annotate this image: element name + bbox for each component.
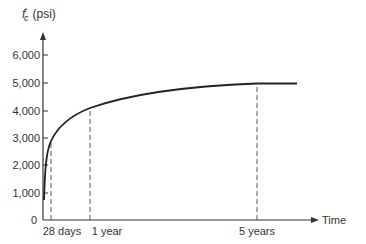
label-5-years: 5 years <box>239 225 276 237</box>
x-axis-arrow-icon <box>311 217 319 223</box>
ytick-6000: 6,000 <box>12 49 40 61</box>
ytick-3000: 3,000 <box>12 132 40 144</box>
x-marker-labels: 28 days 1 year 5 years <box>43 225 276 237</box>
ytick-2000: 2,000 <box>12 159 40 171</box>
ylabel-sub: c <box>24 13 29 23</box>
strength-curve <box>44 84 297 201</box>
ytick-0: 0 <box>31 214 37 226</box>
ytick-1000: 1,000 <box>12 187 40 199</box>
ylabel-unit: (psi) <box>33 7 56 21</box>
y-tick-labels: 0 1,000 2,000 3,000 4,000 5,000 6,000 <box>12 49 40 226</box>
y-axis-label: f′c(psi) <box>22 6 56 23</box>
marker-lines <box>51 84 257 220</box>
y-axis-arrow-icon <box>40 32 46 40</box>
x-axis-label: Time <box>322 214 346 226</box>
strength-time-chart: f′c(psi) Time 0 1,000 2,000 3,000 4,000 … <box>0 0 366 244</box>
label-28-days: 28 days <box>43 225 82 237</box>
label-1-year: 1 year <box>92 225 123 237</box>
ytick-4000: 4,000 <box>12 105 40 117</box>
ytick-5000: 5,000 <box>12 77 40 89</box>
